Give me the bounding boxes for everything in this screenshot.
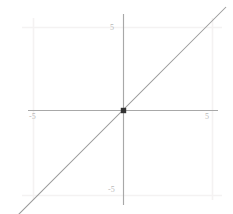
origin-point-marker xyxy=(121,108,126,113)
x-axis-tick-label-left: -5 xyxy=(29,113,36,121)
y-axis-tick-label-top: 5 xyxy=(110,24,114,32)
plot-canvas xyxy=(0,0,233,214)
y-axis-tick-label-bottom: -5 xyxy=(108,186,115,194)
graph-figure: 5 -5 -5 5 xyxy=(0,0,233,214)
x-axis-tick-label-right: 5 xyxy=(205,113,209,121)
